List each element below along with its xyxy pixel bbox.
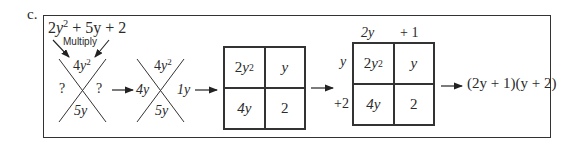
x1-bottom-term: 5y [74,103,87,119]
grid2-cell-bottom-left: 4y [353,84,394,125]
area-grid-2: 2y2 y 4y 2 [352,42,435,126]
grid1-cell-bottom-right: 2 [265,88,306,129]
grid2-cell-top-right: y [394,43,435,84]
grid2-col-header-2: + 1 [400,25,418,41]
x2-bottom-term: 5y [155,103,168,119]
x2-left-factor: 4y [136,82,149,98]
x2-right-factor: 1y [177,82,190,98]
grid2-cell-top-left: 2y2 [353,43,394,84]
x1-right-unknown: ? [96,81,102,97]
x1-top-term: 4y2 [73,58,91,74]
factored-result: (2y + 1)(y + 2) [467,75,556,92]
grid2-row-header-2: +2 [334,96,349,112]
multiply-arrow-right [95,40,109,57]
grid1-cell-top-right: y [265,47,306,88]
grid2-row-header-1: y [340,54,346,70]
x2-top-term: 4y2 [154,58,172,74]
grid1-cell-top-left: 2y2 [224,47,265,88]
grid2-col-header-1: 2y [361,25,374,41]
multiply-arrow-left [53,40,69,57]
grid1-cell-bottom-left: 4y [224,88,265,129]
grid2-cell-bottom-right: 2 [394,84,435,125]
area-grid-1: 2y2 y 4y 2 [223,46,306,130]
x1-left-unknown: ? [59,81,65,97]
